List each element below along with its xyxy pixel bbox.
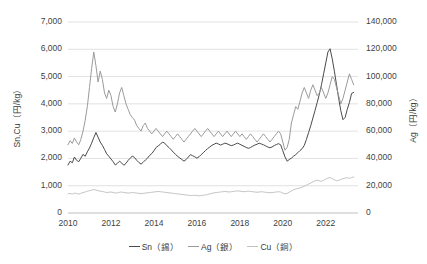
series-line-cu bbox=[68, 177, 354, 196]
legend-label: Ag（銀） bbox=[201, 240, 238, 252]
y-axis-right-tick-4: 80,000 bbox=[366, 98, 426, 108]
y-axis-left-tick-7: 7,000 bbox=[8, 16, 62, 26]
y-axis-right-tick-0: 0 bbox=[366, 207, 426, 217]
y-axis-right-tick-1: 20,000 bbox=[366, 180, 426, 190]
series-lines bbox=[68, 49, 354, 196]
legend-item-cu[interactable]: Cu（銅） bbox=[247, 240, 298, 252]
gridlines bbox=[68, 22, 358, 213]
x-axis-tick-2016: 2016 bbox=[177, 218, 217, 228]
y-axis-left-tick-3: 3,000 bbox=[8, 125, 62, 135]
x-axis-tick-2018: 2018 bbox=[220, 218, 260, 228]
x-axis-tick-2012: 2012 bbox=[91, 218, 131, 228]
x-axis-tick-2010: 2010 bbox=[48, 218, 88, 228]
y-axis-right-tick-5: 100,000 bbox=[366, 71, 426, 81]
legend-label: Cu（銅） bbox=[260, 240, 298, 252]
legend-label: Sn（錫） bbox=[142, 240, 179, 252]
legend-line-icon bbox=[188, 246, 199, 247]
y-axis-left-tick-6: 6,000 bbox=[8, 43, 62, 53]
y-axis-left-tick-5: 5,000 bbox=[8, 71, 62, 81]
chart-legend: Sn（錫）Ag（銀）Cu（銅） bbox=[0, 240, 427, 252]
price-trend-chart: Sn,Cu（円/kg） Ag（円/kg） 001,00020,0002,0004… bbox=[0, 0, 427, 264]
legend-line-icon bbox=[247, 246, 258, 247]
x-axis-tick-2022: 2022 bbox=[306, 218, 346, 228]
y-axis-left-tick-0: 0 bbox=[8, 207, 62, 217]
legend-line-icon bbox=[129, 246, 140, 247]
x-axis-tick-2020: 2020 bbox=[263, 218, 303, 228]
y-axis-left-tick-2: 2,000 bbox=[8, 152, 62, 162]
y-axis-left-title: Sn,Cu（円/kg） bbox=[10, 66, 22, 166]
series-line-sn bbox=[68, 49, 354, 166]
y-axis-right-tick-3: 60,000 bbox=[366, 125, 426, 135]
y-axis-right-tick-2: 40,000 bbox=[366, 152, 426, 162]
legend-item-sn[interactable]: Sn（錫） bbox=[129, 240, 179, 252]
y-axis-left-tick-1: 1,000 bbox=[8, 180, 62, 190]
y-axis-right-tick-6: 120,000 bbox=[366, 43, 426, 53]
series-line-ag bbox=[68, 52, 354, 150]
y-axis-right-tick-7: 140,000 bbox=[366, 16, 426, 26]
legend-item-ag[interactable]: Ag（銀） bbox=[188, 240, 238, 252]
y-axis-left-tick-4: 4,000 bbox=[8, 98, 62, 108]
x-axis-tick-2014: 2014 bbox=[134, 218, 174, 228]
